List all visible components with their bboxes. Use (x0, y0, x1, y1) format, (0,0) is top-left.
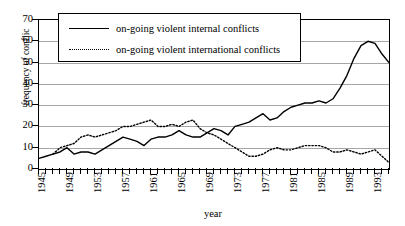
chart-legend: on-going violent internal conflicts on-g… (58, 13, 301, 62)
series-line-international (53, 120, 389, 163)
x-tick-label: 1985 (317, 172, 327, 193)
x-tick-label: 1977 (261, 172, 271, 193)
legend-swatch-dotted-line-icon (69, 44, 109, 54)
x-tick-label: 1993 (373, 172, 383, 193)
x-tick-label: 1961 (149, 172, 159, 193)
legend-label-internal: on-going violent internal conflicts (116, 23, 259, 34)
legend-swatch-solid-line-icon (69, 23, 109, 33)
y-axis-tick-labels: 010203040506070 (0, 0, 36, 226)
x-tick-mark (388, 168, 389, 174)
x-tick-label: 1989 (345, 172, 355, 193)
x-tick-label: 1949 (65, 172, 75, 193)
x-axis-title: year (38, 208, 388, 219)
x-axis-tick-labels: 1945194919531957196119651969197319771981… (38, 174, 388, 208)
x-tick-label: 1945 (37, 172, 47, 193)
x-tick-label: 1957 (121, 172, 131, 193)
legend-entry-international: on-going violent international conflicts (69, 42, 280, 56)
x-tick-label: 1965 (177, 172, 187, 193)
x-tick-label: 1973 (233, 172, 243, 193)
x-tick-label: 1953 (93, 172, 103, 193)
x-tick-label: 1981 (289, 172, 299, 193)
legend-entry-internal: on-going violent internal conflicts (69, 21, 259, 35)
conflict-frequency-line-chart: frequency of conflic 010203040506070 194… (0, 0, 405, 226)
legend-label-international: on-going violent international conflicts (116, 44, 280, 55)
x-tick-label: 1969 (205, 172, 215, 193)
